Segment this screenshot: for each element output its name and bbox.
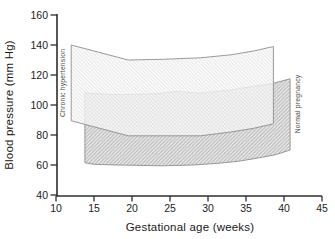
x-tick-label: 15: [88, 202, 100, 214]
y-tick-label: 100: [30, 99, 48, 111]
x-tick-label: 10: [50, 202, 62, 214]
x-axis-title: Gestational age (weeks): [126, 221, 255, 233]
band-label-normal-pregnancy: Normal pregnancy: [294, 75, 301, 134]
y-tick-label: 140: [30, 39, 48, 51]
blood-pressure-chart-figure: 4060801001201401601015202530354045 Blood…: [0, 0, 335, 239]
bands-layer: [71, 45, 290, 166]
y-tick-label: 80: [36, 129, 48, 141]
band-label-chronic-hypertension: Chronic hypertension: [59, 49, 66, 117]
x-tick-label: 30: [202, 202, 214, 214]
chart-svg: 4060801001201401601015202530354045: [0, 0, 335, 239]
chronic-hypertension-band: [71, 45, 273, 136]
x-tick-label: 45: [316, 202, 328, 214]
x-tick-label: 20: [126, 202, 138, 214]
y-axis-title: Blood pressure (mm Hg): [3, 40, 15, 170]
y-tick-label: 120: [30, 69, 48, 81]
y-tick-label: 160: [30, 9, 48, 21]
y-tick-label: 40: [36, 189, 48, 201]
x-tick-label: 35: [240, 202, 252, 214]
x-tick-label: 40: [278, 202, 290, 214]
y-tick-label: 60: [36, 159, 48, 171]
x-tick-label: 25: [164, 202, 176, 214]
